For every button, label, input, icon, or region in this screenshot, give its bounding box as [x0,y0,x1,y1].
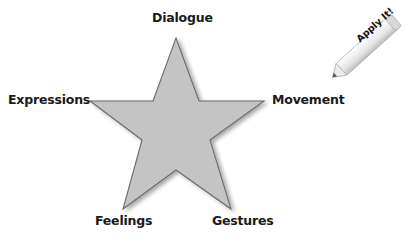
star-label-bottom-left: Feelings [95,213,152,228]
star-label-left: Expressions [8,92,90,107]
apply-it-badge: Apply It! [322,6,412,84]
star-label-top: Dialogue [152,10,213,25]
star-label-bottom-right: Gestures [212,213,274,228]
star-label-right: Movement [272,92,344,107]
pencil-icon [322,6,412,84]
